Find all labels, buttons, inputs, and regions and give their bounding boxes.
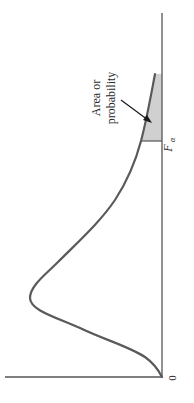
- origin-label: 0: [166, 375, 178, 381]
- density-curve: [30, 74, 162, 377]
- annotation-line2: probability: [104, 72, 118, 125]
- annotation-arrow: [121, 100, 148, 120]
- f-distribution-chart: Area or probability F α 0: [0, 0, 194, 403]
- annotation-line1: Area or: [89, 80, 103, 116]
- svg-text:α: α: [168, 137, 177, 142]
- svg-text:F: F: [161, 144, 175, 153]
- critical-value-label: F α: [161, 137, 177, 153]
